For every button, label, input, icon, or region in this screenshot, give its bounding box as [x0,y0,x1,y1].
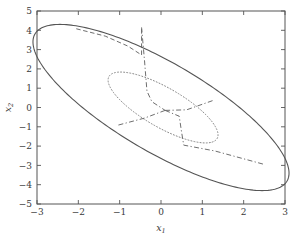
y-tick-label-9: 4 [26,26,32,36]
x-axis-title: x1 [156,222,166,235]
x-tick-label-4: 1 [199,207,205,217]
y-tick-label-8: 3 [26,45,32,55]
y-tick-label-2: −3 [19,161,33,171]
y-axis-title: x2 [2,103,15,113]
y-tick-label-10: 5 [26,6,32,16]
x-tick-label-2: −1 [113,207,126,217]
x-tick-label-6: 3 [282,207,288,217]
inner-confidence-ellipse [108,72,218,143]
plot-frame [37,11,285,204]
y-tick-label-3: −2 [19,141,32,151]
y-tick-label-7: 2 [26,64,32,74]
x-tick-label-3: 0 [158,207,164,217]
x-axis-title-text: x1 [156,222,166,235]
y-tick-label-4: −1 [19,122,32,132]
y-tick-label-6: 1 [26,83,32,93]
y-tick-label-1: −4 [19,180,33,190]
outer-confidence-ellipse [33,24,289,190]
edge-right [165,100,214,110]
y-tick-label-5: 0 [26,103,32,113]
x-tick-label-0: −3 [30,207,44,217]
figure-container: −3−2−10123−5−4−3−2−1012345x1x2 [0,0,296,237]
y-tick-label-0: −5 [19,199,33,209]
edge-upper [142,27,166,110]
edge-upper-left-boundary [76,27,141,55]
x-tick-label-1: −2 [72,207,85,217]
x-tick-label-5: 2 [241,207,247,217]
chart-canvas: −3−2−10123−5−4−3−2−1012345x1x2 [0,0,296,237]
y-axis-title-text: x2 [2,103,15,113]
